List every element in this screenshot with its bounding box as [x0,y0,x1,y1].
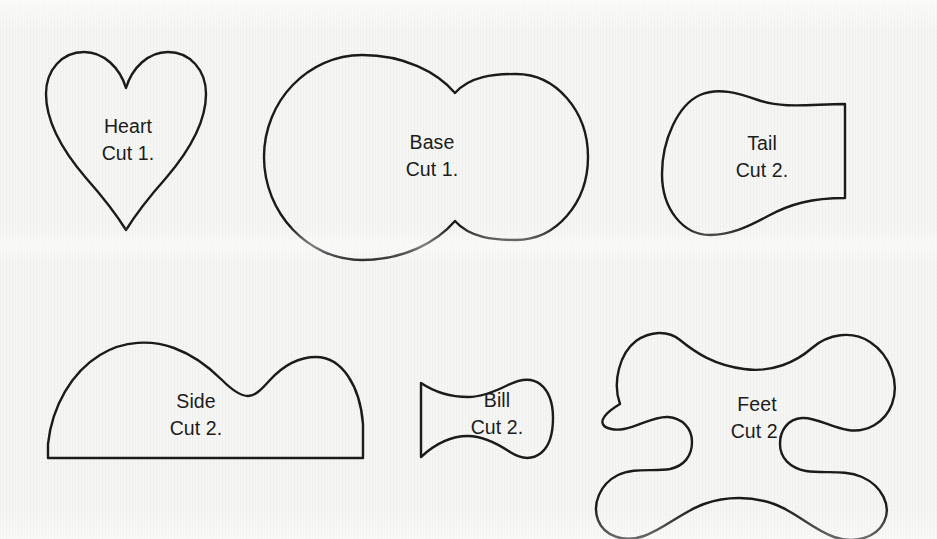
piece-name-feet: Feet [731,391,784,418]
piece-name-side: Side [170,388,223,415]
piece-label-side: Side Cut 2. [170,388,223,442]
piece-label-feet: Feet Cut 2. [731,391,784,445]
piece-cut-side: Cut 2. [170,415,223,442]
piece-name-base: Base [406,129,459,156]
piece-label-heart: Heart Cut 1. [102,113,155,167]
piece-name-bill: Bill [471,387,524,414]
piece-name-heart: Heart [102,113,155,140]
piece-label-base: Base Cut 1. [406,129,459,183]
pattern-sheet: Heart Cut 1. Base Cut 1. Tail Cut 2. Sid… [0,0,937,539]
piece-label-bill: Bill Cut 2. [471,387,524,441]
piece-label-tail: Tail Cut 2. [736,130,789,184]
pattern-outlines [0,0,937,539]
piece-cut-heart: Cut 1. [102,140,155,167]
piece-cut-base: Cut 1. [406,156,459,183]
piece-cut-feet: Cut 2. [731,418,784,445]
piece-cut-bill: Cut 2. [471,414,524,441]
piece-cut-tail: Cut 2. [736,157,789,184]
piece-name-tail: Tail [736,130,789,157]
